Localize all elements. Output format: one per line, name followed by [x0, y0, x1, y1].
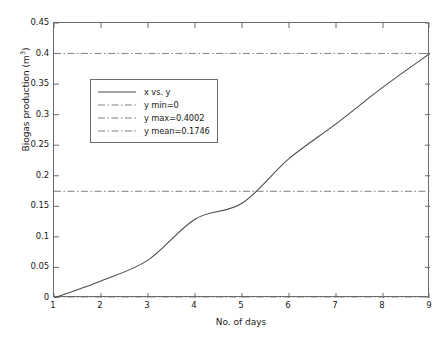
y-axis-tick-label: 0 — [44, 292, 49, 302]
y-axis-tick-label: 0.35 — [30, 78, 49, 88]
chart-figure: 00.050.10.150.20.250.30.350.40.45 Biogas… — [0, 0, 448, 341]
y-axis-ticks — [54, 23, 430, 298]
plot-area — [53, 22, 429, 297]
legend-item: y min=0 — [97, 98, 211, 111]
x-axis-tick-label: 9 — [426, 300, 431, 310]
x-axis-tick-labels: 123456789 — [53, 300, 429, 314]
y-axis-tick-label: 0.25 — [30, 139, 49, 149]
y-axis-tick-label: 0.45 — [30, 17, 49, 27]
y-axis-tick-label: 0.05 — [30, 261, 49, 271]
x-axis-tick-label: 6 — [285, 300, 290, 310]
legend-item-label: x vs. y — [144, 87, 170, 97]
y-axis-title-tail: ) — [21, 47, 31, 51]
legend-item-label: y min=0 — [144, 100, 179, 110]
legend-item: y mean=0.1746 — [97, 124, 211, 137]
x-axis-tick-label: 1 — [50, 300, 55, 310]
x-axis-tick-label: 2 — [97, 300, 102, 310]
y-axis-title: Biogas production (m3) — [14, 0, 33, 245]
legend-line-sample-icon — [97, 126, 137, 136]
x-axis-tick-label: 7 — [332, 300, 337, 310]
y-axis-tick-label: 0.1 — [36, 231, 49, 241]
y-axis-tick-label: 0.15 — [30, 200, 49, 210]
y-axis-tick-label: 0.3 — [36, 109, 49, 119]
y-axis-title-text: Biogas production (m3) — [21, 47, 31, 151]
legend-item-label: y mean=0.1746 — [144, 126, 210, 136]
x-axis-tick-label: 4 — [191, 300, 196, 310]
legend-item-label: y max=0.4002 — [144, 113, 204, 123]
x-axis-title: No. of days — [53, 317, 429, 327]
x-axis-tick-label: 5 — [238, 300, 243, 310]
legend-line-sample-icon — [97, 113, 137, 123]
y-axis-tick-label: 0.2 — [36, 170, 49, 180]
legend-line-sample-icon — [97, 100, 137, 110]
y-axis-tick-label: 0.4 — [36, 48, 49, 58]
x-axis-ticks — [54, 23, 430, 298]
y-axis-title-base: Biogas production (m — [21, 55, 31, 151]
plot-canvas — [54, 23, 430, 298]
x-axis-tick-label: 3 — [144, 300, 149, 310]
x-axis-tick-label: 8 — [379, 300, 384, 310]
y-axis-title-superscript: 3 — [19, 51, 27, 55]
legend-item: x vs. y — [97, 85, 211, 98]
legend-item: y max=0.4002 — [97, 111, 211, 124]
chart-legend: x vs. yy min=0y max=0.4002y mean=0.1746 — [90, 79, 218, 143]
legend-line-sample-icon — [97, 87, 137, 97]
